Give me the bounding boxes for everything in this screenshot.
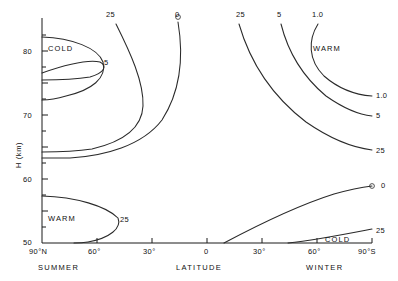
- y-axis-label: H (km): [14, 142, 23, 168]
- region-label-cold-lower-right: COLD: [325, 235, 350, 244]
- x-tick-30N: 30°: [143, 247, 156, 256]
- contour-label-top-25-winter: 25: [236, 10, 245, 19]
- contour-lines: [42, 22, 372, 243]
- region-label-warm-upper-right: WARM: [313, 44, 341, 53]
- contour-label-interior-25: 25: [120, 215, 129, 224]
- x-tick-30S: 30°: [253, 247, 266, 256]
- contour-summer-cold-inner-5: [42, 61, 104, 80]
- x-tick-90N: 90°N: [29, 247, 47, 256]
- region-label-warm-lower-left: WARM: [48, 214, 76, 223]
- y-axis-ticks: [42, 35, 48, 227]
- contour-label-top-0: 0: [175, 10, 179, 19]
- contour-winter-1.0: [311, 24, 372, 96]
- x-tick-90S: 90°S: [358, 247, 376, 256]
- contour-figure: 80 70 60 50 H (km) 90°N 60° 30° 0 30° 60…: [0, 0, 398, 281]
- contour-label-right-1: 1.0: [376, 91, 387, 100]
- x-axis-winter-label: WINTER: [306, 263, 343, 272]
- contour-label-right-5: 5: [376, 111, 380, 120]
- y-tick-60: 60: [23, 175, 32, 184]
- contour-label-interior-5: 5: [104, 58, 108, 67]
- contour-label-right-0: 0: [381, 181, 385, 190]
- contour-winter-5: [281, 24, 372, 116]
- x-tick-60S: 60°: [308, 247, 321, 256]
- contour-label-markers: [176, 15, 375, 189]
- contour-label-right-25: 25: [376, 146, 385, 155]
- y-tick-80: 80: [23, 47, 32, 56]
- y-tick-70: 70: [23, 111, 32, 120]
- y-tick-50: 50: [23, 238, 32, 247]
- x-axis-summer-label: SUMMER: [38, 263, 79, 272]
- contour-label-top-1: 1.0: [312, 10, 323, 19]
- x-tick-0: 0: [204, 247, 209, 256]
- contour-label-top-25-summer: 25: [106, 10, 115, 19]
- contour-zero: [42, 22, 181, 158]
- contour-label-right-25-lower: 25: [376, 226, 385, 235]
- contour-winter-25-upper: [239, 24, 372, 150]
- contour-label-top-5: 5: [277, 10, 281, 19]
- x-axis-label: LATITUDE: [176, 263, 222, 272]
- region-label-cold-upper-left: COLD: [48, 44, 73, 53]
- x-tick-60N: 60°: [88, 247, 101, 256]
